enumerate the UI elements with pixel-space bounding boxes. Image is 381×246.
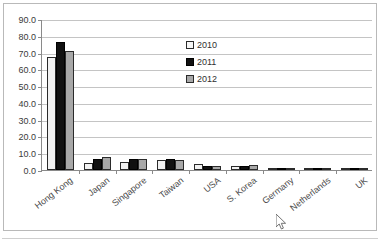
y-axis-tick-label: 70.0 (18, 49, 36, 58)
bar-group (299, 20, 336, 170)
y-axis-tick-label: 10.0 (18, 150, 36, 159)
bar-2012 (359, 168, 368, 170)
bar-2010 (341, 168, 350, 170)
page-edge-divider (2, 238, 378, 239)
bar-2012 (65, 51, 74, 170)
x-tick-mark (152, 170, 153, 174)
bar-2010 (47, 57, 56, 170)
bar-group (336, 20, 373, 170)
x-tick-mark (189, 170, 190, 174)
x-tick-mark (336, 170, 337, 174)
legend-item: 2012 (186, 74, 217, 84)
bar-2011 (93, 159, 102, 170)
x-tick-mark (79, 170, 80, 174)
bar-group (116, 20, 153, 170)
bar-2010 (194, 164, 203, 170)
bar-group (152, 20, 189, 170)
legend-swatch-icon (186, 58, 194, 66)
bar-2012 (138, 159, 147, 170)
bar-group (263, 20, 300, 170)
bar-2011 (240, 166, 249, 170)
bar-2010 (120, 162, 129, 170)
bar-group (42, 20, 79, 170)
y-axis-tick-label: 60.0 (18, 66, 36, 75)
y-axis-tick-label: 50.0 (18, 83, 36, 92)
legend-item: 2010 (186, 40, 217, 50)
bar-2011 (277, 168, 286, 170)
x-axis-label: S. Korea (226, 176, 259, 205)
chart-legend: 201020112012 (186, 40, 217, 84)
y-tick-mark (38, 171, 42, 172)
legend-label: 2011 (197, 58, 216, 67)
y-axis-tick-label: 90.0 (18, 16, 36, 25)
mouse-pointer-icon (276, 214, 287, 230)
bar-2011 (350, 168, 359, 170)
bar-2011 (129, 159, 138, 170)
bar-2011 (313, 168, 322, 170)
legend-label: 2010 (197, 41, 217, 50)
bar-group (79, 20, 116, 170)
x-axis-label: USA (202, 176, 222, 194)
x-tick-mark (299, 170, 300, 174)
legend-swatch-icon (186, 41, 194, 49)
bar-2010 (84, 163, 93, 170)
x-axis-label: UK (354, 176, 369, 191)
x-axis-label: Taiwan (158, 176, 186, 200)
bar-2011 (203, 166, 212, 170)
x-tick-mark (226, 170, 227, 174)
bar-2012 (249, 165, 258, 170)
x-axis-label: Germany (261, 176, 296, 206)
bar-2011 (166, 159, 175, 170)
y-axis-tick-label: 20.0 (18, 133, 36, 142)
bar-2010 (231, 166, 240, 170)
bar-2012 (175, 160, 184, 170)
legend-label: 2012 (197, 75, 217, 84)
y-axis-tick-label: 80.0 (18, 32, 36, 41)
bar-2010 (157, 160, 166, 170)
x-axis-label: Japan (87, 176, 112, 198)
y-axis-tick-label: 0.0 (23, 167, 36, 176)
bar-2012 (322, 168, 331, 170)
y-axis-tick-label: 40.0 (18, 99, 36, 108)
x-axis-label: Singapore (111, 176, 149, 208)
bar-2011 (56, 42, 65, 170)
x-axis-label: Hong Kong (34, 176, 75, 211)
chart-frame: 0.010.020.030.040.050.060.070.080.090.0 … (3, 3, 377, 231)
bar-2012 (102, 157, 111, 170)
x-axis-label: Netherlands (289, 176, 333, 213)
bar-2012 (212, 166, 221, 170)
bar-2012 (286, 168, 295, 170)
bar-2010 (268, 168, 277, 170)
y-axis-tick-label: 30.0 (18, 116, 36, 125)
legend-swatch-icon (186, 75, 194, 83)
bar-2010 (304, 168, 313, 170)
x-tick-mark (116, 170, 117, 174)
bar-group (226, 20, 263, 170)
x-tick-mark (263, 170, 264, 174)
legend-item: 2011 (186, 57, 217, 67)
